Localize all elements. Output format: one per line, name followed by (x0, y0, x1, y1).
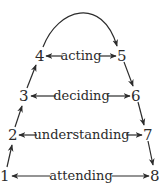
arrow-5-to-6 (124, 62, 133, 86)
node-8: 8 (150, 167, 160, 185)
arrow-3-to-4 (27, 65, 36, 88)
node-3: 3 (19, 87, 29, 105)
node-6: 6 (131, 87, 141, 105)
level-attending: attending (49, 168, 112, 183)
level-acting: acting (60, 48, 101, 63)
level-understanding: understanding (33, 127, 129, 142)
node-5: 5 (117, 47, 127, 65)
arrow-6-to-7 (138, 102, 144, 125)
node-7: 7 (143, 126, 153, 144)
arrow-2-to-3 (15, 106, 22, 127)
level-deciding: deciding (53, 88, 110, 103)
node-4: 4 (35, 47, 45, 65)
arc-4-to-5 (43, 13, 117, 47)
node-1: 1 (0, 167, 10, 185)
arrow-7-to-8 (148, 141, 153, 165)
process-diagram: 1 2 3 4 5 6 7 8 acting deciding understa… (0, 0, 160, 190)
node-2: 2 (8, 126, 18, 144)
arrow-1-to-2 (7, 145, 12, 167)
